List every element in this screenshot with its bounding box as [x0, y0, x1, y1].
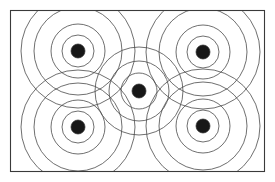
well-core-top-right — [196, 45, 210, 59]
well-core-bottom-right — [196, 119, 210, 133]
concentric-circle-diagram — [0, 0, 275, 182]
diagram-canvas — [0, 0, 275, 182]
well-core-top-left — [71, 44, 85, 58]
well-core-center — [132, 84, 146, 98]
figure-caption — [0, 173, 275, 182]
well-core-bottom-left — [71, 120, 85, 134]
